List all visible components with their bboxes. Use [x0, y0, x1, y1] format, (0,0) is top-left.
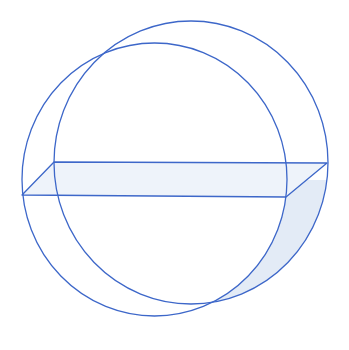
diagram-canvas	[0, 0, 349, 350]
crescent-shaded-region	[180, 180, 349, 350]
plane-shaded-region	[22, 162, 327, 197]
